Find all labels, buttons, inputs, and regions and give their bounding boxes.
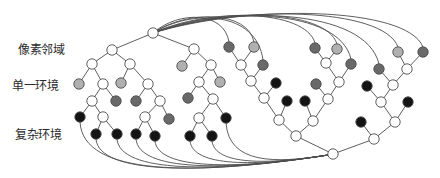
node-dark bbox=[310, 43, 320, 53]
node-black bbox=[403, 97, 413, 107]
node-white bbox=[390, 117, 400, 127]
node-dark bbox=[311, 79, 321, 89]
node-white bbox=[107, 45, 117, 55]
node-black bbox=[282, 96, 292, 106]
node-light bbox=[215, 77, 225, 87]
diagram-canvas: 像素邻域 单一环境 复杂环境 bbox=[0, 0, 440, 178]
node-white bbox=[194, 113, 204, 123]
node-white bbox=[236, 60, 246, 70]
tree-edge bbox=[296, 136, 333, 154]
node-dark bbox=[258, 60, 268, 70]
node-light bbox=[393, 47, 403, 57]
node-white bbox=[402, 64, 412, 74]
node-dark bbox=[183, 93, 193, 103]
node-light bbox=[249, 42, 259, 52]
node-white bbox=[376, 97, 386, 107]
connector-curve bbox=[117, 139, 328, 167]
tree-edge bbox=[153, 33, 194, 49]
node-black bbox=[207, 131, 217, 141]
tree-nodes bbox=[74, 28, 428, 159]
node-white bbox=[308, 116, 318, 126]
node-white bbox=[206, 60, 216, 70]
node-black bbox=[356, 117, 366, 127]
node-white bbox=[388, 80, 398, 90]
node-light bbox=[332, 44, 342, 54]
node-dark bbox=[346, 59, 356, 69]
connector-curve bbox=[226, 123, 328, 160]
node-black bbox=[185, 131, 195, 141]
node-white bbox=[369, 134, 379, 144]
node-black bbox=[75, 112, 85, 122]
node-black bbox=[150, 131, 160, 141]
node-white bbox=[274, 115, 284, 125]
tree-edge bbox=[333, 139, 374, 154]
node-light bbox=[74, 79, 84, 89]
node-black bbox=[300, 96, 310, 106]
node-light bbox=[116, 78, 126, 88]
node-dark bbox=[111, 96, 121, 106]
node-white bbox=[208, 94, 218, 104]
connector-curve bbox=[190, 141, 328, 163]
node-light bbox=[177, 61, 187, 71]
node-white bbox=[334, 77, 344, 87]
connector-curve bbox=[212, 141, 328, 161]
node-white bbox=[125, 59, 135, 69]
connector-curve bbox=[96, 139, 328, 168]
node-white bbox=[140, 112, 150, 122]
node-white bbox=[143, 79, 153, 89]
node-black bbox=[112, 129, 122, 139]
node-dark bbox=[418, 47, 428, 57]
node-white bbox=[321, 58, 331, 68]
node-white bbox=[328, 149, 338, 159]
node-white bbox=[291, 131, 301, 141]
node-white bbox=[87, 59, 97, 69]
node-white bbox=[98, 79, 108, 89]
node-white bbox=[189, 44, 199, 54]
tree-diagram bbox=[0, 0, 440, 178]
node-white bbox=[246, 76, 256, 86]
tree-edge bbox=[112, 33, 153, 50]
node-white bbox=[194, 77, 204, 87]
node-white bbox=[323, 94, 333, 104]
node-black bbox=[131, 129, 141, 139]
node-dark bbox=[224, 42, 234, 52]
node-white bbox=[148, 28, 158, 38]
node-black bbox=[271, 78, 281, 88]
node-black bbox=[221, 113, 231, 123]
node-white bbox=[155, 96, 165, 106]
node-white bbox=[98, 112, 108, 122]
node-dark bbox=[164, 114, 174, 124]
node-black bbox=[362, 81, 372, 91]
node-black bbox=[91, 129, 101, 139]
node-white bbox=[259, 93, 269, 103]
node-dark bbox=[131, 96, 141, 106]
node-dark bbox=[374, 64, 384, 74]
node-white bbox=[87, 96, 97, 106]
connector-curve bbox=[155, 141, 328, 165]
